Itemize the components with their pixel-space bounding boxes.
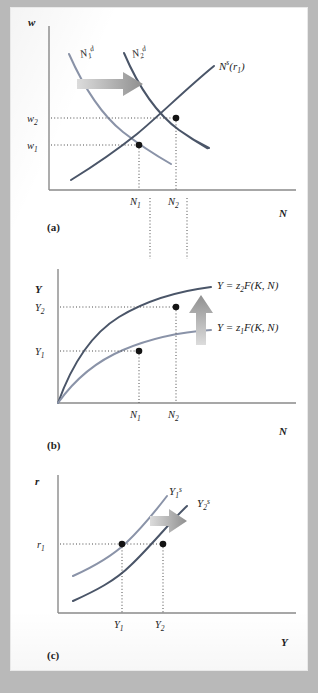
output-supply-point-1 [119, 541, 126, 548]
curve-production-function-low [58, 330, 211, 403]
shift-arrow-up [189, 295, 213, 345]
panel-b-production-function: Y N Y2 Y1 N1 N2 Y = z2F(K, N) Y = z1F(K,… [11, 251, 307, 463]
curve-label-Y2s: Y2s [197, 497, 210, 512]
panel-a-x-tick-N2: N2 [167, 196, 179, 210]
panel-b-y-tick-Y1: Y1 [35, 346, 45, 360]
shift-arrow-right [77, 72, 143, 96]
panel-c-x-axis-label: Y [281, 636, 289, 648]
panel-c-output-supply: r Y r1 Y1 Y2 Y1s Y2s (c) [11, 463, 307, 670]
panel-c-plot: r Y r1 Y1 Y2 Y1s Y2s [11, 463, 307, 670]
curve-label-production-high: Y = z2F(K, N) [217, 279, 279, 294]
curve-label-N2d: N2d [129, 44, 149, 63]
panel-c-y-tick-r1: r1 [37, 539, 45, 553]
panel-a-x-axis-label: N [278, 207, 288, 219]
panel-c-caption: (c) [47, 649, 59, 661]
panel-a-caption: (a) [47, 221, 60, 233]
production-point-1 [136, 348, 143, 355]
panel-b-plot: Y N Y2 Y1 N1 N2 Y = z2F(K, N) Y = z1F(K,… [11, 251, 307, 463]
curve-label-production-low: Y = z1F(K, N) [217, 321, 279, 336]
panel-b-x-axis-label: N [278, 425, 288, 437]
output-supply-point-2 [160, 541, 167, 548]
panel-c-y-axis-label: r [35, 475, 40, 487]
curve-label-N1d: N1d [77, 44, 97, 63]
equilibrium-point-2 [173, 115, 180, 122]
equilibrium-point-1 [136, 142, 143, 149]
panel-b-guides [60, 307, 176, 403]
panel-b-x-tick-N2: N2 [167, 409, 179, 423]
panel-c-x-tick-Y1: Y1 [114, 619, 124, 633]
curve-label-Ns: Ns(r1) [218, 58, 245, 75]
panel-b-caption: (b) [47, 439, 60, 451]
panel-b-x-tick-N1: N1 [129, 409, 141, 423]
panel-b-y-axis-label: Y [35, 283, 43, 295]
scanned-page: w N w2 w1 N1 N2 N1d N2d [11, 8, 307, 670]
production-point-2 [173, 304, 180, 311]
panel-c-x-tick-Y2: Y2 [155, 619, 165, 633]
panel-a-guides [51, 118, 176, 190]
panel-a-plot: w N w2 w1 N1 N2 N1d N2d [11, 8, 307, 251]
panel-b-y-tick-Y2: Y2 [35, 302, 45, 316]
panel-a-y-axis-label: w [28, 16, 36, 28]
panel-a-labor-market: w N w2 w1 N1 N2 N1d N2d [11, 8, 307, 251]
curve-label-Y1s: Y1s [169, 485, 182, 500]
panel-a-y-tick-w1: w1 [27, 140, 38, 154]
panel-a-y-tick-w2: w2 [27, 113, 38, 127]
panel-a-x-tick-N1: N1 [129, 196, 141, 210]
curve-output-supply-initial [73, 496, 167, 576]
